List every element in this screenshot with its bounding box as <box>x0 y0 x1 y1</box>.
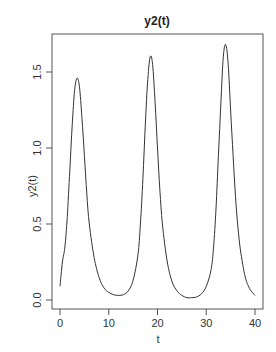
plot-frame <box>52 34 263 309</box>
chart-title: y2(t) <box>144 14 169 28</box>
y-tick-label: 0.0 <box>31 292 43 307</box>
line-chart: y2(t) 010203040 0.00.51.01.5 t y2(t) <box>0 0 276 352</box>
y-tick-label: 1.5 <box>31 64 43 79</box>
series-line-y2 <box>60 44 255 298</box>
x-tick-label: 0 <box>57 317 63 329</box>
x-tick-label: 30 <box>200 317 212 329</box>
x-axis: 010203040 <box>57 309 261 329</box>
x-axis-label: t <box>156 333 159 345</box>
x-tick-label: 20 <box>151 317 163 329</box>
y-tick-label: 0.5 <box>31 216 43 231</box>
x-tick-label: 40 <box>249 317 261 329</box>
y-tick-label: 1.0 <box>31 140 43 155</box>
y-axis-label: y2(t) <box>26 175 38 197</box>
x-tick-label: 10 <box>103 317 115 329</box>
